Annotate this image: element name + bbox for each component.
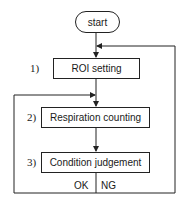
condition-judgement-label: Condition judgement <box>50 157 142 168</box>
step-number-2: 2) <box>27 111 36 123</box>
start-terminal: start <box>75 11 120 33</box>
step-number-3: 3) <box>27 156 36 168</box>
roi-setting-box: ROI setting <box>53 58 140 79</box>
step-number-1: 1) <box>30 62 39 74</box>
ng-branch-label: NG <box>101 180 116 191</box>
roi-setting-label: ROI setting <box>71 63 121 74</box>
respiration-counting-box: Respiration counting <box>41 107 150 128</box>
start-label: start <box>88 17 107 28</box>
condition-judgement-box: Condition judgement <box>41 152 150 173</box>
respiration-counting-label: Respiration counting <box>50 112 141 123</box>
ok-branch-label: OK <box>74 180 88 191</box>
